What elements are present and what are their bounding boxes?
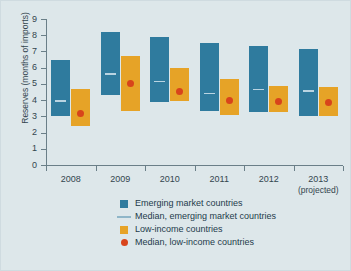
bar-low-income <box>71 89 90 126</box>
bar-emerging-market <box>299 49 318 116</box>
median-line-emerging-market <box>154 81 165 83</box>
x-axis-tick-label: 2012 <box>244 174 294 185</box>
legend-dot-icon <box>121 239 128 246</box>
legend-item-label: Median, low-income countries <box>135 237 254 248</box>
y-axis-tick-label: 5 <box>23 79 37 88</box>
legend-square-icon <box>120 200 128 208</box>
y-axis-tick-label: 6 <box>23 63 37 72</box>
x-axis-tick-label: 2013 <box>293 174 343 185</box>
x-axis-tick <box>46 166 47 171</box>
legend-item[interactable]: Median, low-income countries <box>113 236 343 249</box>
median-dot-low-income <box>226 97 233 104</box>
legend-square-icon <box>120 226 128 234</box>
y-axis-tick-label: 2 <box>23 128 37 137</box>
median-line-emerging-market <box>55 100 66 102</box>
plot-area <box>46 19 343 165</box>
y-axis-tick-label: 8 <box>23 31 37 40</box>
bar-emerging-market <box>150 37 169 102</box>
median-line-emerging-market <box>253 89 264 91</box>
x-axis-tick <box>195 166 196 171</box>
legend-item[interactable]: Low-income countries <box>113 223 343 236</box>
legend-item[interactable]: Emerging market countries <box>113 197 343 210</box>
median-line-emerging-market <box>204 93 215 95</box>
x-axis-tick <box>294 166 295 171</box>
x-axis-tick-sublabel: (projected) <box>288 185 348 195</box>
bar-emerging-market <box>249 46 268 113</box>
x-axis-tick <box>96 166 97 171</box>
y-axis-tick-label: 9 <box>23 15 37 24</box>
x-axis-tick-label: 2011 <box>194 174 244 185</box>
median-dot-low-income <box>176 88 183 95</box>
y-axis-tick-label: 1 <box>23 144 37 153</box>
legend-line-icon <box>117 216 131 218</box>
median-line-emerging-market <box>303 90 314 92</box>
x-axis-tick-label: 2009 <box>95 174 145 185</box>
legend-item-label: Low-income countries <box>135 224 223 235</box>
x-axis-tick <box>244 166 245 171</box>
legend-item-label: Emerging market countries <box>135 198 243 209</box>
bar-emerging-market <box>200 43 219 111</box>
y-axis-tick-label: 7 <box>23 47 37 56</box>
median-line-emerging-market <box>105 73 116 75</box>
bar-emerging-market <box>51 60 70 116</box>
x-axis-tick <box>145 166 146 171</box>
y-axis-tick-label: 0 <box>23 161 37 170</box>
y-axis-tick-label: 4 <box>23 96 37 105</box>
chart-figure: Reserves (months of imports) 0123456789 … <box>0 0 351 271</box>
y-axis-tick-label: 3 <box>23 112 37 121</box>
x-axis-tick-label: 2008 <box>46 174 96 185</box>
median-dot-low-income <box>325 99 332 106</box>
legend-item[interactable]: Median, emerging market countries <box>113 210 343 223</box>
x-axis-tick <box>343 166 344 171</box>
x-axis-tick-label: 2010 <box>145 174 195 185</box>
chart-legend: Emerging market countriesMedian, emergin… <box>113 197 343 249</box>
bar-low-income <box>170 68 189 100</box>
legend-item-label: Median, emerging market countries <box>135 211 276 222</box>
bar-emerging-market <box>101 32 120 95</box>
